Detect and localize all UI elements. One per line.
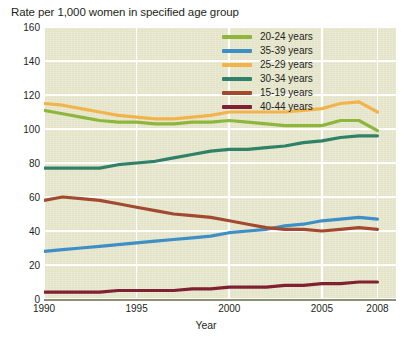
legend-item-label: 30-34 years: [260, 73, 313, 84]
series-line: [44, 282, 377, 292]
y-axis-tick-label: 100: [0, 124, 40, 135]
legend-swatch-icon: [222, 77, 252, 81]
x-axis-tick-label: 2005: [311, 303, 333, 314]
legend-item: 35-39 years: [222, 44, 313, 57]
y-axis-tick-label: 140: [0, 56, 40, 67]
chart-legend: 20-24 years35-39 years25-29 years30-34 y…: [222, 30, 313, 113]
chart-title: Rate per 1,000 women in specified age gr…: [11, 6, 239, 18]
legend-item-label: 40-44 years: [260, 101, 313, 112]
chart-figure: Rate per 1,000 women in specified age gr…: [0, 0, 412, 338]
plot-area: [44, 27, 396, 299]
series-line: [44, 217, 377, 251]
legend-swatch-icon: [222, 91, 252, 95]
legend-swatch-icon: [222, 63, 252, 67]
legend-swatch-icon: [222, 35, 252, 39]
x-axis-line: [44, 299, 396, 301]
series-lines: [44, 27, 396, 299]
x-axis-tick-label: 1990: [33, 303, 55, 314]
x-axis-tick-label: 2000: [218, 303, 240, 314]
series-line: [44, 197, 377, 231]
legend-item-label: 15-19 years: [260, 87, 313, 98]
legend-item: 40-44 years: [222, 100, 313, 113]
legend-item: 20-24 years: [222, 30, 313, 43]
x-axis-tick-label: 1995: [126, 303, 148, 314]
y-axis-tick-labels: 020406080100120140160: [0, 27, 40, 299]
legend-swatch-icon: [222, 105, 252, 109]
x-axis-title: Year: [0, 319, 412, 331]
legend-item-label: 35-39 years: [260, 45, 313, 56]
legend-item-label: 25-29 years: [260, 59, 313, 70]
y-axis-tick-label: 60: [0, 192, 40, 203]
x-axis-tick-label: 2008: [366, 303, 388, 314]
y-axis-tick-label: 160: [0, 22, 40, 33]
series-line: [44, 110, 377, 130]
y-axis-tick-label: 80: [0, 158, 40, 169]
y-axis-tick-label: 20: [0, 260, 40, 271]
y-axis-tick-label: 40: [0, 226, 40, 237]
legend-item: 15-19 years: [222, 86, 313, 99]
legend-swatch-icon: [222, 49, 252, 53]
legend-item: 25-29 years: [222, 58, 313, 71]
series-line: [44, 102, 377, 119]
legend-item-label: 20-24 years: [260, 31, 313, 42]
x-axis-tick-labels: 19901995200020052008: [0, 303, 412, 319]
legend-item: 30-34 years: [222, 72, 313, 85]
y-axis-tick-label: 120: [0, 90, 40, 101]
series-line: [44, 136, 377, 168]
